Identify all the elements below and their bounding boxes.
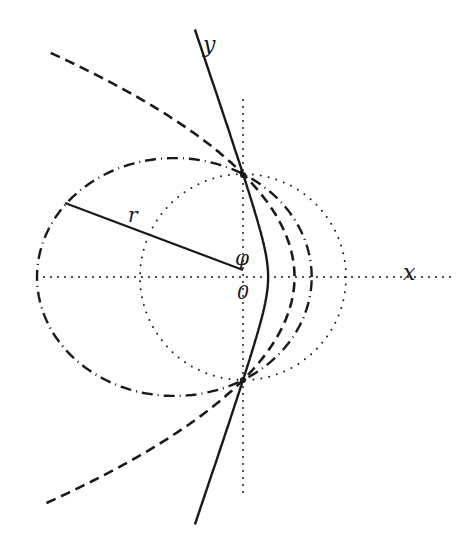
intersection-point-bottom: [240, 377, 246, 383]
radius-line: [65, 203, 243, 270]
y-axis-label: y: [202, 32, 216, 57]
x-axis-label: x: [403, 260, 416, 285]
angle-label: φ: [235, 246, 249, 270]
intersection-point-top: [240, 172, 246, 178]
conic-sections-diagram: y x r φ 0: [0, 0, 465, 533]
radius-label: r: [128, 203, 139, 227]
origin-label: 0: [237, 281, 249, 303]
